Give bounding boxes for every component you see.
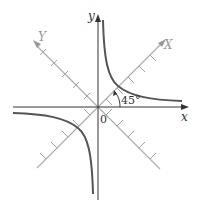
x-axis-label: x bbox=[181, 110, 188, 124]
rotated-y-label: Y bbox=[38, 30, 47, 44]
diagram-canvas: y x X Y 0 45° bbox=[0, 0, 201, 214]
angle-label: 45° bbox=[121, 94, 141, 107]
hyperbola-branch-lower-left bbox=[13, 113, 93, 194]
origin-label: 0 bbox=[100, 113, 107, 126]
hyperbola-branch-upper-right bbox=[103, 20, 182, 101]
y-axis-label: y bbox=[87, 9, 95, 23]
rotated-x-label: X bbox=[163, 38, 173, 52]
y-arrow-icon bbox=[95, 14, 101, 22]
